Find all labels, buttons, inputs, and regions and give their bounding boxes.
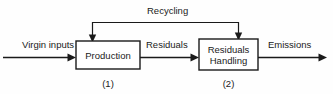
production-box-label: Production	[85, 50, 130, 61]
emissions-edge	[258, 53, 327, 61]
residuals-handling-index-label: (2)	[223, 78, 235, 89]
production-index-label: (1)	[102, 78, 114, 89]
flow-diagram-canvas: Recycling Virgin inputs Production (1) R…	[0, 0, 333, 94]
edge-label-emissions: Emissions	[268, 39, 312, 50]
edge-label-recycling: Recycling	[147, 5, 188, 16]
node-residuals-handling[interactable]: Residuals Handling	[199, 39, 258, 70]
materials-balance-diagram: Recycling Virgin inputs Production (1) R…	[0, 0, 333, 94]
node-production[interactable]: Production	[76, 41, 140, 69]
residuals-arrowhead	[191, 53, 200, 61]
emissions-arrowhead	[319, 53, 328, 61]
edge-label-residuals: Residuals	[146, 39, 188, 50]
residuals-edge	[140, 53, 199, 61]
edge-label-virgin-inputs: Virgin inputs	[22, 39, 74, 50]
virgin-inputs-edge	[3, 53, 76, 61]
virgin-inputs-arrowhead	[68, 53, 77, 61]
residuals-handling-box-label-line2: Handling	[210, 55, 248, 66]
residuals-handling-box-label-line1: Residuals	[208, 44, 250, 55]
recycling-path	[93, 23, 239, 40]
